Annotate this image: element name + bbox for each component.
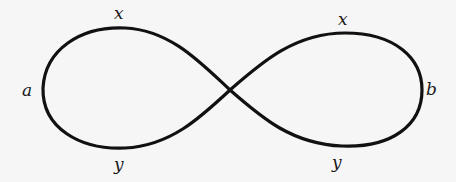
label-left-top: x — [114, 3, 124, 23]
right-lobe-curve — [230, 33, 422, 146]
label-right-side: b — [426, 79, 437, 99]
label-right-bottom: y — [331, 152, 342, 172]
label-left-side: a — [22, 80, 32, 100]
figure-eight-diagram: x a y x b y — [0, 0, 456, 182]
label-left-bottom: y — [113, 154, 124, 174]
label-right-top: x — [338, 9, 348, 29]
left-lobe-curve — [43, 28, 230, 148]
